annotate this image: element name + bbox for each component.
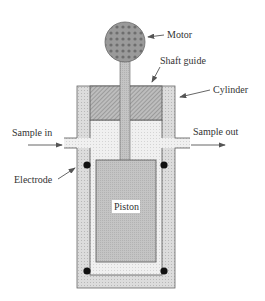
electrode-top-left xyxy=(83,161,90,168)
outlet-port xyxy=(161,138,190,148)
sample-out-label: Sample out xyxy=(193,126,238,137)
piston-cell-diagram: Piston Motor Shaft guide Cylinder Sample… xyxy=(0,0,265,301)
shaft-guide-pointer-arrow xyxy=(152,67,160,82)
electrode-top-right xyxy=(160,161,167,168)
electrode-bottom-left xyxy=(83,267,90,274)
shaft-guide-label: Shaft guide xyxy=(160,55,206,66)
shaft xyxy=(120,60,130,161)
cylinder-label: Cylinder xyxy=(213,84,249,95)
piston-label: Piston xyxy=(114,201,139,212)
electrode-label: Electrode xyxy=(14,174,53,185)
electrode-bottom-right xyxy=(160,267,167,274)
inlet-port xyxy=(64,138,91,148)
motor-icon xyxy=(105,22,145,62)
sample-in-label: Sample in xyxy=(12,127,52,138)
electrode-pointer-arrow xyxy=(58,168,75,179)
motor-pointer-arrow xyxy=(148,35,164,37)
cylinder-pointer-arrow xyxy=(180,90,210,97)
motor-label: Motor xyxy=(167,29,193,40)
